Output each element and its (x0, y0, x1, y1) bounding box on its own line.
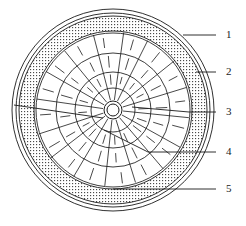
hub-inner-circle (107, 104, 119, 116)
callout-3-label: 3 (226, 106, 232, 117)
sector-tick (156, 108, 167, 109)
callout-1-label: 1 (226, 29, 232, 40)
figure-container: 12345 (0, 0, 246, 226)
callout-4-label: 4 (226, 146, 232, 157)
center-hub (104, 101, 122, 119)
callout-2-label: 2 (226, 66, 232, 77)
callout-5-label: 5 (226, 183, 232, 194)
disc-diagram-svg (0, 0, 246, 226)
sector-tick (116, 153, 117, 162)
